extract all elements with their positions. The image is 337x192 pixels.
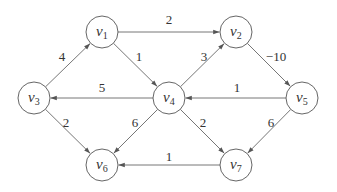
edge-arrow (45, 43, 90, 86)
node-v7: v7 (220, 149, 252, 181)
edge-weight-label: 1 (166, 149, 173, 164)
node-v3: v3 (18, 82, 50, 114)
edge-weight-label: 1 (234, 80, 241, 95)
node-v5: v5 (286, 82, 318, 114)
graph-diagram: 2143−105126261 v1v2v3v4v5v6v7 (0, 0, 337, 192)
edge-weight-label: −10 (266, 49, 286, 64)
node-v2: v2 (220, 16, 252, 48)
node-v1: v1 (86, 16, 118, 48)
edge-weight-label: 2 (200, 115, 207, 130)
edge-v3-v1 (45, 43, 90, 86)
edge-weight-label: 1 (136, 49, 143, 64)
edge-weight-label: 5 (99, 80, 106, 95)
edge-weight-label: 2 (166, 12, 173, 27)
edge-weight-label: 3 (201, 49, 208, 64)
edge-weight-label: 2 (63, 115, 70, 130)
node-v6: v6 (86, 149, 118, 181)
node-v4: v4 (153, 82, 185, 114)
edge-weight-label: 6 (132, 115, 139, 130)
edge-weight-label: 4 (59, 49, 66, 64)
edge-weight-label: 6 (268, 115, 275, 130)
